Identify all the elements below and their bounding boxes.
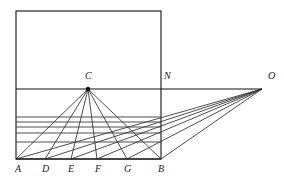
- point-label-a: A: [15, 164, 21, 174]
- ray-O-G: [127, 89, 262, 159]
- point-label-d: D: [42, 164, 49, 174]
- point-label-b: B: [158, 164, 164, 174]
- point-label-n: N: [164, 71, 171, 81]
- ray-O-E: [71, 89, 262, 159]
- point-C-dot: [86, 87, 90, 91]
- picture-plane-border: [16, 11, 161, 159]
- ray-O-F: [97, 89, 262, 159]
- picture-plane-rectangle: [16, 11, 161, 159]
- ray-C-G: [88, 89, 127, 159]
- perspective-diagram: ADEFGBCNO: [0, 0, 284, 180]
- station-point-dot: [86, 87, 90, 91]
- diagram-canvas: [0, 0, 284, 180]
- ray-O-B: [161, 89, 262, 159]
- ray-C-E: [71, 89, 88, 159]
- ray-O-A: [16, 89, 262, 159]
- point-label-g: G: [124, 164, 131, 174]
- point-label-f: F: [95, 164, 101, 174]
- point-label-e: E: [68, 164, 74, 174]
- point-label-c: C: [85, 71, 92, 81]
- ray-C-F: [88, 89, 97, 159]
- point-label-o: O: [268, 71, 275, 81]
- vanishing-rays-from-O: [16, 89, 262, 159]
